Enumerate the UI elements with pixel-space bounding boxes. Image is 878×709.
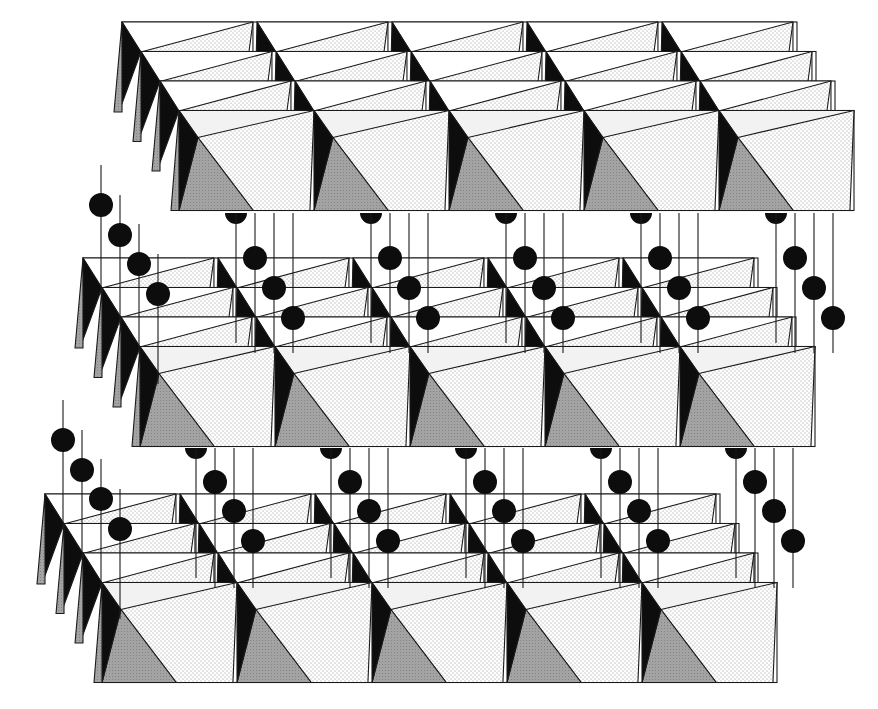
bottom-layer [37,494,777,683]
cation-sphere [338,470,362,494]
octahedra-row [171,111,854,211]
cation-sphere [357,499,381,523]
octahedral-sheets [37,22,854,683]
cation-sphere [648,246,672,270]
cation-sphere [241,529,265,553]
cation-sphere [551,306,575,330]
cation-sphere [762,499,786,523]
cation-sphere [608,470,632,494]
cation-sphere [743,470,767,494]
cation-sphere [70,458,94,482]
layered-structure-diagram [0,0,878,709]
cation-sphere [511,529,535,553]
cation-sphere [473,470,497,494]
row-end-face [37,494,45,584]
cation-sphere [532,276,556,300]
cation-sphere [89,487,113,511]
cation-sphere [513,246,537,270]
cation-sphere [89,193,113,217]
cation-sphere [51,428,75,452]
cation-sphere [203,470,227,494]
cation-sphere [262,276,286,300]
cation-sphere [108,223,132,247]
top-layer [114,22,854,211]
cation-sphere [802,276,826,300]
cation-sphere [243,246,267,270]
cation-sphere [222,499,246,523]
cation-sphere [376,529,400,553]
cation-sphere [627,499,651,523]
cation-sphere [821,306,845,330]
cation-sphere [492,499,516,523]
cation-sphere [781,529,805,553]
cation-sphere [667,276,691,300]
row-end-face [75,258,83,348]
cation-sphere [378,246,402,270]
cation-sphere [783,246,807,270]
cation-sphere [686,306,710,330]
octahedra-row [94,583,777,683]
cation-sphere [416,306,440,330]
middle-layer [75,258,815,447]
row-end-face [114,22,122,112]
cation-sphere [127,252,151,276]
cation-sphere [281,306,305,330]
cation-sphere [397,276,421,300]
cation-sphere [146,282,170,306]
cation-sphere [646,529,670,553]
octahedra-row [132,347,815,447]
cation-sphere [108,517,132,541]
